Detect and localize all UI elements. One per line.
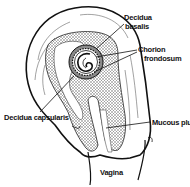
label-decidua-basalis: Decidua basalis [124,13,152,31]
uterus-diagram: Decidua basalis Chorion frondosum Decidu… [0,0,190,187]
label-vagina: Vagina [100,168,123,177]
label-line: Chorion [138,45,181,54]
label-line: basalis [124,22,152,31]
label-chorion-frondosum: Chorion frondosum [138,45,181,63]
uterus-illustration [0,0,190,187]
label-mucous-plug: Mucous plug [152,118,190,127]
label-line: Decidua [124,13,152,22]
label-decidua-capsularis: Decidua capsularis [4,113,69,122]
label-line: frondosum [138,54,181,63]
